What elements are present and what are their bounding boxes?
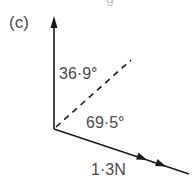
force-arrowhead-2-icon: [155, 159, 166, 167]
cropped-text-fragment: g: [106, 0, 114, 5]
part-label: (c): [9, 14, 29, 31]
vertical-arrowhead-icon: [51, 16, 58, 28]
upper-angle-label: 36·9°: [59, 66, 97, 82]
force-diagram: g (c) 36·9° 69·5° 1·3N: [0, 0, 195, 194]
force-magnitude-label: 1·3N: [91, 162, 126, 178]
lower-angle-label: 69·5°: [86, 115, 124, 131]
force-arrowhead-1-icon: [136, 153, 147, 161]
